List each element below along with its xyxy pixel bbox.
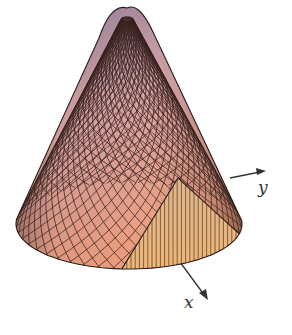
cone-body	[14, 7, 249, 280]
x-axis-line	[180, 262, 205, 296]
x-axis: x	[180, 262, 208, 312]
x-axis-label: x	[184, 292, 194, 312]
y-axis-line	[230, 172, 260, 178]
y-axis-label: y	[257, 177, 268, 197]
y-axis: y	[230, 168, 268, 197]
cone-surface-plot: x y	[0, 0, 292, 335]
y-axis-arrowhead-icon	[256, 168, 266, 175]
